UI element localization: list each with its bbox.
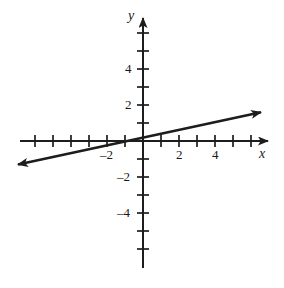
y-axis [137,18,149,268]
coordinate-plane-svg [0,0,284,288]
plotted-line [18,112,261,164]
x-tick-label-4: 4 [212,148,219,161]
y-tick-label--4: –4 [117,206,130,219]
y-axis-label: y [128,9,134,23]
x-tick-label-2: 2 [176,148,183,161]
y-tick-label-4: 4 [125,62,132,75]
y-tick-label--2: –2 [117,170,130,183]
y-tick-label-2: 2 [125,98,132,111]
graph-figure: y x –2 2 4 4 2 –2 –4 [0,0,284,288]
x-tick-label--2: –2 [100,148,113,161]
x-axis-label: x [259,147,265,161]
